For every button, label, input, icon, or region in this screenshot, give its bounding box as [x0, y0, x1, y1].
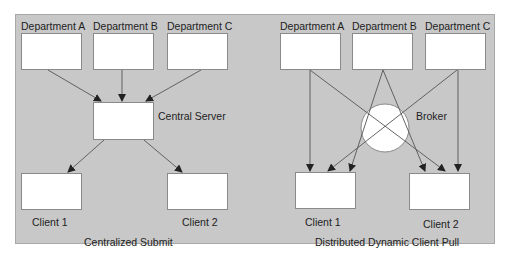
right-dept-a-box [280, 33, 341, 70]
right-dept-c-box [425, 33, 486, 70]
left-client-1-box [21, 173, 82, 210]
broker-label: Broker [416, 110, 447, 122]
left-dept-b-label: Department B [93, 20, 158, 32]
right-client-1-box [295, 172, 356, 209]
left-client-2-box [167, 173, 228, 210]
broker-node [361, 104, 409, 152]
left-dept-a-label: Department A [21, 20, 85, 32]
right-dept-b-box [352, 33, 413, 70]
central-server-label: Central Server [158, 110, 226, 122]
left-caption: Centralized Submit [84, 236, 173, 248]
right-client-1-label: Client 1 [305, 216, 341, 228]
right-client-2-box [409, 173, 470, 210]
right-dept-c-label: Department C [425, 20, 490, 32]
left-dept-c-label: Department C [167, 20, 232, 32]
right-dept-a-label: Department A [280, 20, 344, 32]
right-caption: Distributed Dynamic Client Pull [315, 236, 459, 248]
left-client-1-label: Client 1 [32, 216, 68, 228]
left-dept-a-box [21, 33, 82, 70]
central-server-box [93, 102, 154, 140]
right-dept-b-label: Department B [352, 20, 417, 32]
left-dept-b-box [93, 33, 154, 70]
left-dept-c-box [167, 33, 228, 70]
left-client-2-label: Client 2 [182, 216, 218, 228]
right-client-2-label: Client 2 [423, 218, 459, 230]
